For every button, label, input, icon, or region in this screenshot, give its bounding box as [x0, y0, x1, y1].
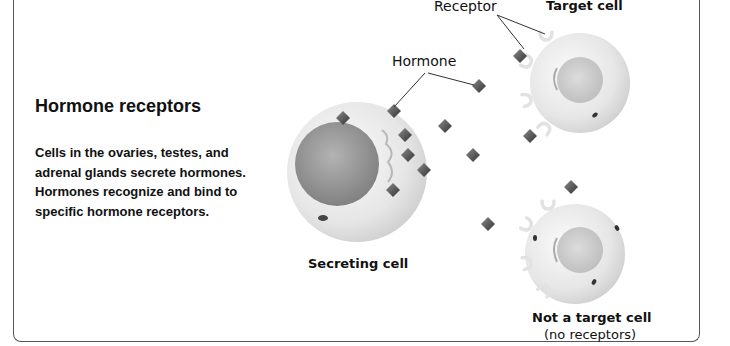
hormone-diagram	[0, 0, 730, 346]
hormone-icon	[466, 148, 480, 162]
receptor-icon	[522, 93, 532, 106]
secreting-cell	[287, 102, 427, 242]
no-receptors-note: (no receptors)	[544, 327, 636, 342]
secreting-cell-label: Secreting cell	[308, 256, 408, 271]
target-cell-label: Target cell	[546, 0, 623, 13]
hormone-icon	[438, 119, 452, 133]
hormone-icon	[513, 49, 527, 63]
receptor-icon	[538, 121, 552, 135]
hormone-label: Hormone	[392, 53, 456, 69]
hormone-icon	[523, 129, 537, 143]
target-cell	[521, 32, 630, 135]
hormone-icon	[472, 79, 486, 93]
hormone-icon	[564, 180, 578, 194]
receptor-icon	[542, 201, 554, 209]
not-target-cell-label: Not a target cell	[532, 310, 652, 325]
receptor-label: Receptor	[434, 0, 497, 14]
hormone-icon	[481, 217, 495, 231]
non-target-cell	[521, 201, 625, 304]
